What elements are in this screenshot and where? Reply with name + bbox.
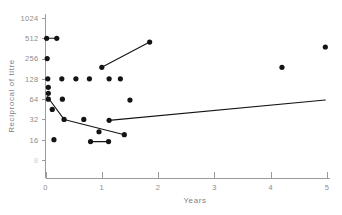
chart-container: 81632641282565121024 012345 Reciprocal o… (0, 0, 342, 215)
x-tick-label: 3 (212, 183, 216, 192)
data-point (46, 97, 51, 102)
data-point (51, 137, 56, 142)
trend-lines-layer (47, 38, 326, 141)
x-axis-ticks: 012345 (43, 172, 329, 192)
data-point (96, 129, 101, 134)
scatter-plot: 81632641282565121024 012345 Reciprocal o… (0, 0, 342, 215)
data-point (46, 91, 51, 96)
data-point (122, 132, 127, 137)
x-axis-label: Years (183, 196, 206, 205)
trend-line-rising-segment-upper (102, 42, 150, 67)
data-points-layer (44, 36, 328, 145)
y-tick-label: 256 (25, 54, 38, 63)
data-point (59, 76, 64, 81)
y-axis-label: Reciprocal of titre (7, 59, 16, 133)
trend-line-rising-segment-lower (109, 100, 325, 120)
data-point (88, 139, 93, 144)
data-point (54, 36, 59, 41)
data-point (107, 76, 112, 81)
data-point (118, 76, 123, 81)
data-point (61, 117, 66, 122)
data-point (45, 56, 50, 61)
axes-group (46, 14, 331, 179)
y-tick-label: 128 (25, 75, 38, 84)
data-point (46, 85, 51, 90)
data-point (50, 107, 55, 112)
x-tick-label: 0 (43, 183, 47, 192)
x-tick-label: 4 (268, 183, 272, 192)
data-point (127, 97, 132, 102)
y-tick-label: 1024 (21, 14, 39, 23)
data-point (60, 97, 65, 102)
data-point (107, 118, 112, 123)
data-point (73, 76, 78, 81)
x-tick-label: 5 (325, 183, 329, 192)
y-tick-label: 16 (30, 136, 39, 145)
y-tick-label: 512 (25, 34, 38, 43)
data-point (279, 65, 284, 70)
y-axis-ticks: 81632641282565121024 (21, 14, 46, 165)
data-point (44, 36, 49, 41)
data-point (147, 39, 152, 44)
y-tick-label: 32 (30, 115, 39, 124)
data-point (99, 65, 104, 70)
data-point (87, 76, 92, 81)
y-tick-label: 64 (30, 95, 39, 104)
x-tick-label: 2 (156, 183, 160, 192)
y-tick-label: 8 (34, 156, 38, 165)
x-tick-label: 1 (100, 183, 104, 192)
data-point (323, 44, 328, 49)
data-point (81, 117, 86, 122)
data-point (106, 139, 111, 144)
data-point (45, 76, 50, 81)
trend-line-declining-segment-mid (64, 119, 124, 134)
